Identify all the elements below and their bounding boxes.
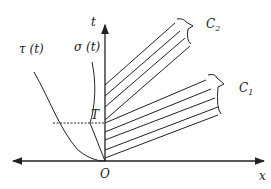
characteristics-diagram: t x O T τ (t) σ (t) C2 C1	[0, 0, 271, 189]
C2-label: C2	[206, 17, 220, 33]
C1-label: C1	[239, 81, 253, 97]
T-label: T	[91, 108, 100, 122]
t-axis-label: t	[91, 15, 96, 29]
C2-characteristics	[105, 23, 190, 120]
tau-label: τ (t)	[19, 42, 44, 56]
sigma-label: σ (t)	[74, 40, 101, 54]
x-axis-label: x	[259, 169, 266, 183]
origin-label: O	[100, 167, 110, 181]
C1-characteristics	[105, 80, 218, 158]
